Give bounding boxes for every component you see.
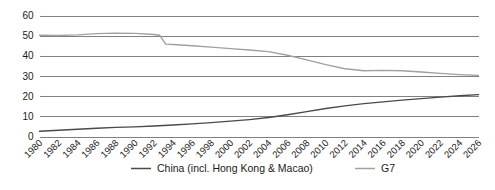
legend-label: China (incl. Hong Kong & Macao) — [157, 162, 313, 174]
chart-container: 0102030405060 19801982198419861988199019… — [0, 0, 495, 190]
x-tick-label: 2022 — [423, 137, 446, 160]
series-line — [40, 95, 479, 132]
gridlines-group — [40, 17, 479, 138]
x-tick-label: 2012 — [327, 137, 350, 160]
x-tick-label: 2004 — [251, 137, 274, 160]
x-tick-label: 2010 — [308, 137, 331, 160]
x-tick-label: 1984 — [60, 137, 83, 160]
y-tick-label: 30 — [22, 71, 34, 82]
y-axis-tick-labels: 0102030405060 — [22, 10, 34, 142]
x-tick-label: 2018 — [384, 137, 407, 160]
legend-item: G7 — [355, 162, 395, 174]
y-tick-label: 40 — [22, 50, 34, 61]
y-tick-label: 50 — [22, 30, 34, 41]
x-tick-label: 1980 — [22, 137, 45, 160]
x-tick-label: 2024 — [442, 137, 465, 160]
x-tick-label: 2006 — [270, 137, 293, 160]
y-tick-label: 10 — [22, 111, 34, 122]
x-tick-label: 1988 — [98, 137, 121, 160]
x-tick-label: 2008 — [289, 137, 312, 160]
x-tick-label: 2002 — [232, 137, 255, 160]
x-tick-label: 1998 — [193, 137, 216, 160]
x-tick-label: 1986 — [79, 137, 102, 160]
x-axis-tick-labels: 1980198219841986198819901992199419961998… — [22, 137, 484, 160]
legend-item: China (incl. Hong Kong & Macao) — [131, 162, 313, 174]
series-line — [40, 33, 479, 75]
chart-legend: China (incl. Hong Kong & Macao)G7 — [131, 162, 395, 174]
x-tick-label: 1992 — [136, 137, 159, 160]
x-tick-label: 2020 — [403, 137, 426, 160]
x-tick-label: 2014 — [346, 137, 369, 160]
x-tick-label: 2016 — [365, 137, 388, 160]
y-tick-label: 20 — [22, 91, 34, 102]
x-tick-label: 1994 — [155, 137, 178, 160]
legend-label: G7 — [381, 162, 395, 174]
x-tick-label: 1982 — [41, 137, 64, 160]
x-tick-label: 1996 — [174, 137, 197, 160]
line-chart: 0102030405060 19801982198419861988199019… — [0, 0, 495, 190]
x-tick-label: 1990 — [117, 137, 140, 160]
y-tick-label: 60 — [22, 10, 34, 21]
x-tick-label: 2026 — [461, 137, 484, 160]
x-tick-label: 2000 — [213, 137, 236, 160]
